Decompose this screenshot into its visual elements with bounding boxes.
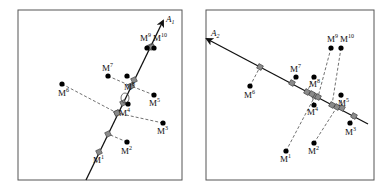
projection-line bbox=[62, 84, 117, 113]
axis-label: A2 bbox=[210, 28, 220, 39]
projection-marker bbox=[257, 64, 264, 71]
point-label: M10 bbox=[340, 33, 354, 44]
point-label: M7 bbox=[290, 63, 301, 74]
data-point bbox=[59, 81, 64, 86]
data-point bbox=[338, 92, 343, 97]
point-label: M8 bbox=[124, 81, 135, 92]
point-label: M9 bbox=[140, 32, 151, 43]
point-label: M8 bbox=[309, 78, 320, 89]
projection-line bbox=[250, 67, 260, 86]
right-panel: A2M1M2M3M4M5M6M7M8M9M10 bbox=[206, 10, 374, 180]
point-label: M4 bbox=[119, 107, 130, 118]
point-label: M1 bbox=[280, 153, 291, 164]
projection-line bbox=[286, 96, 315, 151]
point-label: M6 bbox=[58, 87, 69, 98]
point-label: M3 bbox=[157, 125, 168, 136]
data-point bbox=[347, 120, 352, 125]
data-point bbox=[124, 139, 129, 144]
data-point bbox=[293, 74, 298, 79]
point-label: M7 bbox=[102, 62, 113, 73]
projection-line bbox=[314, 107, 337, 143]
data-point bbox=[105, 73, 110, 78]
point-label: M3 bbox=[345, 126, 356, 137]
data-point bbox=[124, 73, 129, 78]
data-point bbox=[338, 45, 343, 50]
point-label: M6 bbox=[244, 89, 255, 100]
projection-line bbox=[318, 48, 331, 97]
data-point bbox=[151, 45, 156, 50]
point-label: M5 bbox=[149, 97, 160, 108]
data-point bbox=[144, 45, 149, 50]
data-point bbox=[328, 45, 333, 50]
projection-diagram: A1M1M2M3M4M5M6M7M8M9M10 A2M1M2M3M4M5M6M7… bbox=[0, 0, 385, 195]
axis-label: A1 bbox=[165, 14, 175, 25]
point-label: M5 bbox=[338, 97, 349, 108]
axis-line bbox=[207, 39, 368, 124]
point-label: M2 bbox=[308, 145, 319, 156]
point-label: M10 bbox=[153, 32, 167, 43]
data-point bbox=[151, 92, 156, 97]
point-label: M4 bbox=[307, 106, 318, 117]
point-label: M2 bbox=[121, 145, 132, 156]
data-point bbox=[125, 101, 130, 106]
data-point bbox=[247, 83, 252, 88]
point-label: M1 bbox=[93, 154, 104, 165]
point-label: M9 bbox=[327, 33, 338, 44]
projection-marker bbox=[105, 131, 112, 138]
left-panel: A1M1M2M3M4M5M6M7M8M9M10 bbox=[18, 10, 182, 180]
